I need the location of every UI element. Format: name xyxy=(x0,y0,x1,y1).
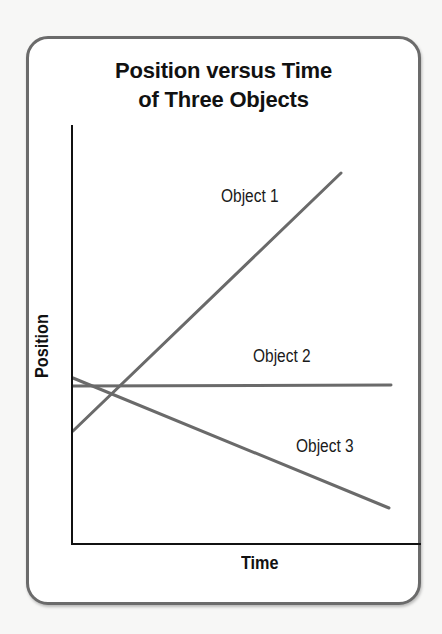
plot-area xyxy=(0,0,442,634)
object-1-label: Object 1 xyxy=(221,186,279,207)
object-3-label: Object 3 xyxy=(296,436,354,457)
object-2-label: Object 2 xyxy=(253,346,311,367)
y-axis-label: Position xyxy=(32,314,53,378)
object-2-line xyxy=(73,385,391,386)
object-1-line xyxy=(73,173,341,431)
x-axis-label: Time xyxy=(241,553,279,574)
